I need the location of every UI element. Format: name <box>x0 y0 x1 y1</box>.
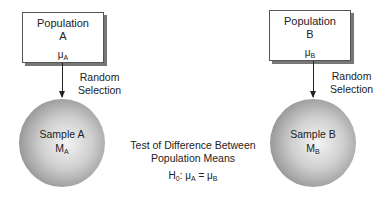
test-description: Test of Difference BetweenPopulation Mea… <box>118 139 268 165</box>
population-b-box: Population B μB <box>269 10 351 61</box>
sample-b-circle: Sample B MB <box>270 99 356 187</box>
population-a-mean: μA <box>23 48 103 64</box>
population-b-title: Population <box>284 15 336 27</box>
population-a-label: A <box>59 30 66 42</box>
population-a-box: Population A μA <box>22 12 104 63</box>
population-b-mean: μB <box>270 46 350 62</box>
population-b-label: B <box>306 28 313 40</box>
arrow-b <box>313 61 314 97</box>
arrow-a <box>62 63 63 97</box>
random-selection-b-label: RandomSelection <box>330 70 373 96</box>
sample-b-mean: MB <box>306 142 319 154</box>
sample-b-title: Sample B <box>290 128 336 140</box>
sample-a-circle: Sample A MA <box>19 99 105 187</box>
sample-a-title: Sample A <box>40 128 85 140</box>
sample-a-mean: MA <box>55 142 68 154</box>
population-a-title: Population <box>37 17 89 29</box>
null-hypothesis: H0: μA = μB <box>118 170 268 182</box>
random-selection-a-label: RandomSelection <box>78 71 121 97</box>
